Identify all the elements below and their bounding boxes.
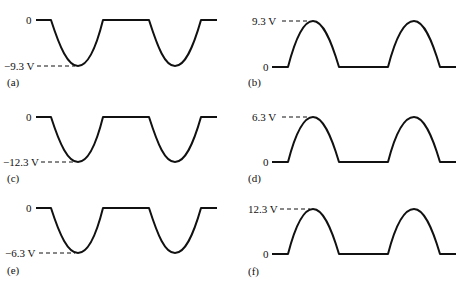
- zero-label: 0: [263, 248, 269, 260]
- peak-label: 12.3 V: [248, 203, 278, 215]
- peak-label: −6.3 V: [5, 247, 36, 259]
- panel-label: (b): [248, 76, 261, 89]
- zero-label: 0: [26, 111, 32, 123]
- peak-label: 9.3 V: [252, 15, 276, 27]
- peak-label: 6.3 V: [252, 111, 276, 123]
- waveform: [36, 117, 217, 162]
- zero-label: 0: [26, 14, 32, 26]
- waveform: [36, 208, 217, 253]
- peak-label: −12.3 V: [3, 156, 39, 168]
- waveform-figure: 0 −9.3 V (a) 0 9.3 V (b) 0 −12.3 V (c) 0…: [0, 0, 457, 282]
- panel-label: (f): [248, 265, 259, 278]
- zero-label: 0: [263, 156, 269, 168]
- panel-label: (a): [7, 76, 20, 89]
- peak-label: −9.3 V: [4, 60, 35, 72]
- waveform: [36, 20, 217, 66]
- panel-e: 0 −6.3 V (e): [5, 202, 217, 277]
- panel-c: 0 −12.3 V (c): [3, 111, 217, 185]
- waveform: [272, 117, 456, 162]
- waveform: [272, 209, 456, 254]
- zero-label: 0: [263, 61, 269, 73]
- waveform: [272, 21, 456, 67]
- zero-label: 0: [26, 202, 32, 214]
- panel-label: (d): [248, 172, 261, 185]
- panel-a: 0 −9.3 V (a): [4, 14, 217, 89]
- panel-label: (c): [7, 172, 20, 185]
- panel-label: (e): [7, 264, 20, 277]
- panel-d: 0 6.3 V (d): [248, 111, 456, 185]
- panel-f: 0 12.3 V (f): [248, 203, 456, 278]
- panel-b: 0 9.3 V (b): [248, 15, 456, 89]
